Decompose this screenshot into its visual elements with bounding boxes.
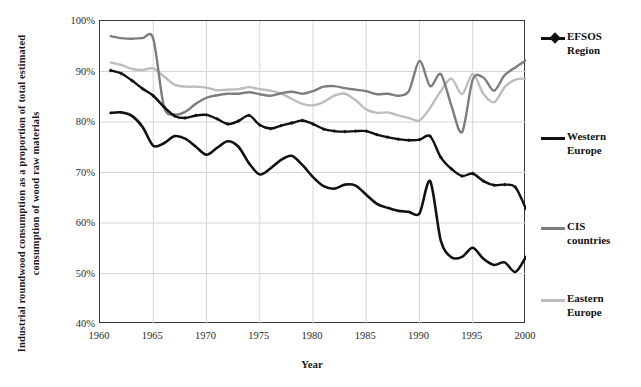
x-axis-tick: 1975 bbox=[248, 330, 269, 341]
plot-area bbox=[99, 20, 525, 323]
x-axis-tick: 1985 bbox=[355, 330, 376, 341]
y-axis-tick: 70% bbox=[61, 166, 95, 177]
x-axis-title: Year bbox=[99, 358, 525, 370]
x-axis-tick: 1995 bbox=[461, 330, 482, 341]
legend-label-line2: Europe bbox=[567, 306, 604, 320]
series-western-europe bbox=[111, 112, 526, 272]
legend-item-western-europe[interactable]: WesternEurope bbox=[540, 130, 641, 158]
gridlines bbox=[100, 21, 526, 324]
y-axis-tick: 60% bbox=[61, 217, 95, 228]
legend-label-line1: Western bbox=[567, 130, 606, 144]
x-axis-tick: 2000 bbox=[515, 330, 536, 341]
x-axis-tick: 1965 bbox=[142, 330, 163, 341]
legend-label: CIScountries bbox=[567, 220, 610, 248]
y-axis-title: Industrial roundwood consumption as a pr… bbox=[0, 0, 58, 387]
x-axis-tick: 1960 bbox=[89, 330, 110, 341]
y-axis-tick: 50% bbox=[61, 267, 95, 278]
chart-svg bbox=[100, 21, 526, 324]
x-axis-tick: 1990 bbox=[408, 330, 429, 341]
y-axis-tick: 80% bbox=[61, 116, 95, 127]
legend-swatch-efsos-region-icon bbox=[540, 32, 566, 44]
x-axis-tick: 1980 bbox=[302, 330, 323, 341]
legend-label-line2: countries bbox=[567, 234, 610, 248]
legend-label: EFSOSRegion bbox=[567, 30, 602, 58]
y-axis-tick: 100% bbox=[61, 15, 95, 26]
y-axis-tick: 90% bbox=[61, 65, 95, 76]
y-axis-tick-labels: 100%90%80%70%60%50%40% bbox=[59, 0, 95, 387]
legend-label: WesternEurope bbox=[567, 130, 606, 158]
legend-item-efsos-region[interactable]: EFSOSRegion bbox=[540, 30, 641, 58]
legend-label-line2: Europe bbox=[567, 144, 606, 158]
legend-swatch-cis-countries-icon bbox=[540, 222, 566, 234]
legend-label-line2: Region bbox=[567, 44, 602, 58]
legend-swatch-eastern-europe-icon bbox=[540, 294, 566, 306]
y-axis-tick: 40% bbox=[61, 318, 95, 329]
x-axis-tick: 1970 bbox=[195, 330, 216, 341]
legend-item-cis-countries[interactable]: CIScountries bbox=[540, 220, 641, 248]
legend-swatch-western-europe-icon bbox=[540, 132, 566, 144]
legend-label-line1: CIS bbox=[567, 220, 610, 234]
legend-label-line1: EFSOS bbox=[567, 30, 602, 44]
legend-label-line1: Eastern bbox=[567, 292, 604, 306]
legend-label: EasternEurope bbox=[567, 292, 604, 320]
chart-container: Industrial roundwood consumption as a pr… bbox=[0, 0, 641, 387]
legend-item-eastern-europe[interactable]: EasternEurope bbox=[540, 292, 641, 320]
